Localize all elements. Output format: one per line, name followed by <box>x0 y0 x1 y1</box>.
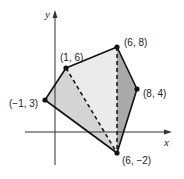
vertex-A-point <box>63 65 68 70</box>
x-axis-arrow-icon <box>164 130 172 135</box>
vertex-E-label: (−1, 3) <box>9 98 38 109</box>
vertex-D-label: (6, −2) <box>122 155 151 166</box>
vertex-E-point <box>42 97 47 102</box>
y-axis-arrow-icon <box>53 10 58 18</box>
vertex-A-label: (1, 6) <box>60 52 83 63</box>
vertex-B-label: (6, 8) <box>124 37 147 48</box>
vertex-C-point <box>134 86 139 91</box>
x-axis-label: x <box>163 136 169 148</box>
vertex-D-point <box>114 150 119 155</box>
vertex-B-point <box>114 44 119 49</box>
coordinate-diagram: x y (1, 6) (6, 8) (8, 4) (6, −2) (−1, 3) <box>0 0 184 179</box>
y-axis-label: y <box>44 8 50 20</box>
vertex-C-label: (8, 4) <box>143 88 166 99</box>
